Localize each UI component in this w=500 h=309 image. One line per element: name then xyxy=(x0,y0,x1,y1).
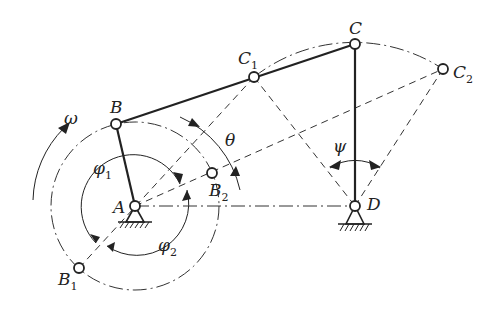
phi2-arrowhead-1 xyxy=(182,190,191,201)
joint-C2 xyxy=(438,64,448,74)
four-bar-linkage-diagram: A B B1 B2 C C1 C2 D ω θ ψ φ1 φ2 xyxy=(0,0,500,309)
joint-C1 xyxy=(249,72,259,82)
label-phi2: φ2 xyxy=(158,235,177,259)
crank-AB xyxy=(116,124,135,206)
label-D: D xyxy=(366,194,381,214)
label-psi: ψ xyxy=(333,136,347,156)
coupler-BC xyxy=(116,44,355,124)
label-omega: ω xyxy=(64,108,78,128)
label-B: B xyxy=(109,97,123,117)
joint-B2 xyxy=(207,168,217,178)
label-B2: B2 xyxy=(208,180,229,204)
label-C1: C1 xyxy=(238,48,258,72)
joint-A xyxy=(130,201,140,211)
line-A-C2 xyxy=(135,69,443,206)
omega-arc xyxy=(33,128,64,200)
label-C: C xyxy=(349,18,362,38)
phi1-arrowhead-1 xyxy=(173,172,183,184)
rocker-arc xyxy=(254,42,443,77)
psi-arrowhead-1 xyxy=(329,160,341,170)
label-theta: θ xyxy=(225,130,235,150)
theta-arrowhead-2 xyxy=(230,166,240,176)
theta-arrowhead-1 xyxy=(188,118,200,127)
label-B1: B1 xyxy=(57,269,78,293)
psi-arrowhead-2 xyxy=(369,160,381,170)
joint-B xyxy=(111,119,121,129)
joint-C xyxy=(350,39,360,49)
label-A: A xyxy=(111,197,125,217)
joint-D xyxy=(350,201,360,211)
joint-B1 xyxy=(74,263,84,273)
label-C2: C2 xyxy=(453,62,473,86)
label-phi1: φ1 xyxy=(93,158,112,182)
line-C2-D xyxy=(355,69,443,206)
